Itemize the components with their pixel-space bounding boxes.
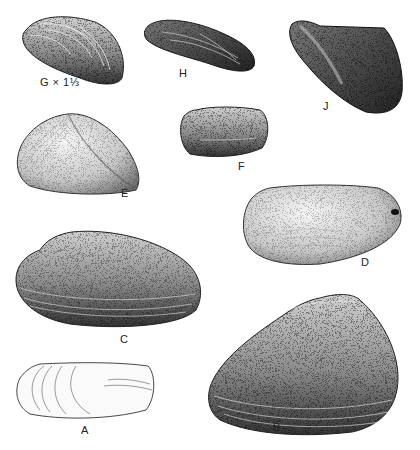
label-a: A — [81, 424, 89, 436]
shell-c — [16, 231, 201, 326]
label-c: C — [120, 333, 128, 345]
label-g: G × 1⅓ — [40, 76, 79, 88]
label-e: E — [121, 187, 129, 199]
label-d: D — [361, 256, 369, 268]
label-f: F — [238, 160, 245, 172]
shell-b — [209, 295, 398, 435]
shell-j — [290, 21, 403, 113]
shell-f — [181, 107, 268, 156]
shell-e — [17, 114, 138, 194]
label-j: J — [323, 100, 329, 112]
label-b: B — [273, 421, 281, 433]
shell-h — [144, 20, 254, 71]
shell-plate — [0, 0, 420, 450]
shell-g — [23, 17, 124, 84]
shell-a — [17, 363, 154, 418]
shell-d — [243, 185, 401, 264]
label-h: H — [179, 67, 187, 79]
